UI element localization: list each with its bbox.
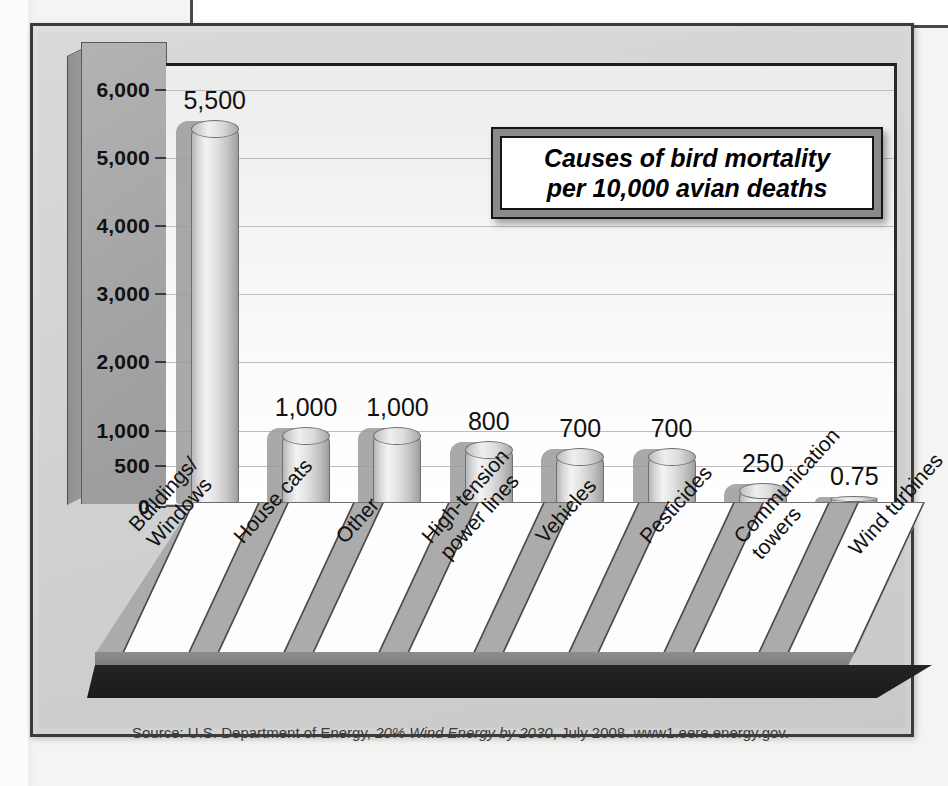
y-tick-mark-5000 [155, 157, 166, 159]
chart-inner-panel: 6,0005,0004,0003,0002,0001,00050005,5001… [39, 32, 905, 728]
bar-2: 1,000 [373, 428, 421, 504]
y-tick-label-4000: 4,000 [58, 214, 150, 238]
y-tick-label-2000: 2,000 [58, 350, 150, 374]
gridline-2000 [166, 362, 894, 363]
y-tick-mark-3000 [155, 293, 166, 295]
bar-value-label-4: 700 [559, 414, 601, 443]
floor-base-slab [87, 665, 932, 698]
y-tick-mark-2000 [155, 361, 166, 363]
bar-value-label-5: 700 [651, 414, 693, 443]
source-title: 20% Wind Energy by 2030 [375, 724, 552, 741]
chart-title-line2: per 10,000 avian deaths [547, 173, 828, 204]
y-tick-mark-1000 [155, 430, 166, 432]
y-tick-label-6000: 6,000 [58, 78, 150, 102]
chart-3d-scene: 6,0005,0004,0003,0002,0001,00050005,5001… [39, 32, 923, 746]
bar-0: 5,500 [191, 121, 239, 504]
y-tick-mark-4000 [155, 225, 166, 227]
floor-surface [95, 502, 925, 655]
bar-top-cap [648, 448, 696, 466]
y-tick-label-500: 500 [58, 454, 150, 478]
bar-value-label-3: 800 [468, 407, 510, 436]
bar-top-cap [556, 448, 604, 466]
y-tick-mark-6000 [155, 89, 166, 91]
chart-frame: 6,0005,0004,0003,0002,0001,00050005,5001… [30, 23, 914, 737]
chart-title-callout: Causes of bird mortality per 10,000 avia… [491, 127, 883, 219]
gridline-6000 [166, 90, 894, 91]
bar-value-label-2: 1,000 [366, 393, 429, 422]
source-suffix: , July 2008. www1.eere.energy.gov. [553, 724, 789, 741]
chart-title-inner: Causes of bird mortality per 10,000 avia… [500, 136, 874, 210]
bar-top-cap [282, 427, 330, 445]
floor-group [67, 502, 927, 677]
chart-title-line1: Causes of bird mortality [544, 143, 830, 174]
source-note: Source: U.S. Department of Energy, 20% W… [132, 724, 789, 741]
gridline-4000 [166, 226, 894, 227]
bar-top-cap [191, 120, 239, 138]
y-tick-label-3000: 3,000 [58, 282, 150, 306]
y-tick-label-5000: 5,000 [58, 146, 150, 170]
y-tick-mark-500 [155, 465, 166, 467]
y-tick-label-1000: 1,000 [58, 419, 150, 443]
bar-value-label-0: 5,500 [183, 86, 246, 115]
bar-body [191, 121, 239, 504]
bar-value-label-1: 1,000 [275, 393, 338, 422]
bar-value-label-6: 250 [742, 449, 784, 478]
gridline-3000 [166, 294, 894, 295]
source-prefix: Source: U.S. Department of Energy, [132, 724, 375, 741]
